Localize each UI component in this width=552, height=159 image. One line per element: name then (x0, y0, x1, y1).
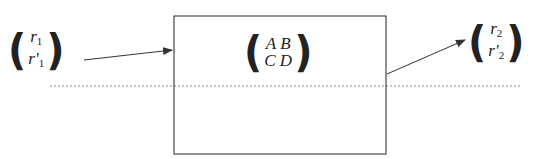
matrix-row-1: A B (266, 35, 291, 52)
right-paren-icon: ) (506, 21, 524, 63)
output-r-sub: 2 (497, 27, 503, 39)
output-rprime-label: r′ (488, 41, 498, 60)
output-rprime-sub: 2 (499, 49, 505, 61)
input-vector: ( r1 r′1 ) (8, 28, 64, 72)
right-paren-icon: ) (46, 29, 64, 71)
input-r-sub: 1 (37, 35, 43, 47)
input-r-label: r (30, 27, 37, 46)
output-ray-arrow (387, 40, 465, 74)
output-r-label: r (490, 19, 497, 38)
left-paren-icon: ( (8, 29, 26, 71)
abcd-matrix: ( A B C D ) (244, 32, 312, 72)
left-paren-icon: ( (468, 21, 486, 63)
output-vector: ( r2 r′2 ) (468, 20, 524, 64)
input-ray-arrow (84, 50, 172, 60)
left-paren-icon: ( (244, 31, 262, 73)
input-rprime-sub: 1 (39, 57, 45, 69)
right-paren-icon: ) (294, 31, 312, 73)
input-rprime-label: r′ (28, 49, 38, 68)
matrix-row-2: C D (264, 52, 292, 69)
